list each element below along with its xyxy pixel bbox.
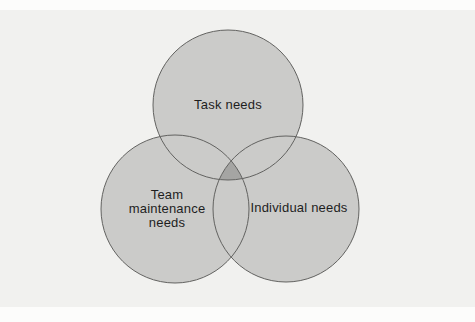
- team-maintenance-needs-label-line2: maintenance: [129, 201, 206, 216]
- team-maintenance-needs-label-line1: Team: [151, 187, 184, 202]
- venn-diagram: Task needs Team maintenance needs Indivi…: [0, 0, 475, 322]
- venn-diagram-page: Task needs Team maintenance needs Indivi…: [0, 0, 475, 322]
- team-maintenance-needs-label-line3: needs: [149, 215, 186, 230]
- task-needs-label: Task needs: [194, 97, 262, 112]
- individual-needs-label: Individual needs: [250, 200, 347, 215]
